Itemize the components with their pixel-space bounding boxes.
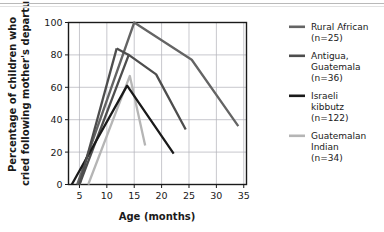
plot-frame: [69, 23, 247, 185]
chart-figure: Percentage of children who cried followi…: [0, 0, 384, 232]
chart-legend: Rural African(n=25)Antigua,Guatemala(n=3…: [289, 22, 369, 163]
x-tick-label: 5: [76, 190, 82, 201]
x-tick-label: 30: [210, 190, 222, 201]
y-tick-label: 0: [56, 179, 62, 190]
data-series-group: [72, 23, 238, 185]
x-tick-labels: 5101520253035: [76, 190, 249, 201]
x-tick-label: 20: [156, 190, 168, 201]
legend-label: Rural African: [311, 22, 369, 32]
legend-item: Rural African(n=25): [289, 22, 369, 43]
legend-label: (n=25): [311, 33, 343, 43]
axis-ticks: [65, 23, 244, 189]
x-tick-label: 25: [183, 190, 195, 201]
y-tick-label: 40: [50, 114, 62, 125]
y-tick-label: 20: [50, 147, 62, 158]
header-rule-secondary: [0, 6, 384, 7]
x-tick-label: 35: [238, 190, 250, 201]
legend-label: (n=122): [311, 113, 348, 123]
y-axis-title: Percentage of children who cried followi…: [7, 0, 31, 186]
data-line: [72, 86, 174, 185]
y-tick-label: 80: [50, 49, 62, 60]
y-axis-title-line1: Percentage of children who: [7, 17, 18, 172]
legend-item: Israelikibbutz(n=122): [289, 91, 348, 123]
legend-item: GuatemalanIndian(n=34): [289, 131, 366, 163]
legend-label: Indian: [311, 142, 339, 152]
grid-lines: [69, 23, 247, 185]
x-tick-label: 15: [128, 190, 140, 201]
legend-item: Antigua,Guatemala(n=36): [289, 51, 361, 83]
y-tick-labels: 020406080100: [44, 17, 62, 190]
legend-label: (n=34): [311, 153, 343, 163]
y-axis-title-line2: cried following mother's departure: [20, 0, 31, 186]
header-rule: [0, 3, 384, 4]
legend-label: (n=36): [311, 73, 343, 83]
legend-label: kibbutz: [311, 102, 344, 112]
legend-label: Antigua,: [311, 51, 349, 61]
y-tick-label: 100: [44, 17, 62, 28]
legend-label: Guatemalan: [311, 131, 366, 141]
y-tick-label: 60: [50, 82, 62, 93]
x-axis-title: Age (months): [119, 211, 196, 222]
legend-label: Israeli: [311, 91, 338, 101]
legend-label: Guatemala: [311, 62, 361, 72]
x-tick-label: 10: [101, 190, 113, 201]
line-chart: Percentage of children who cried followi…: [0, 0, 384, 232]
